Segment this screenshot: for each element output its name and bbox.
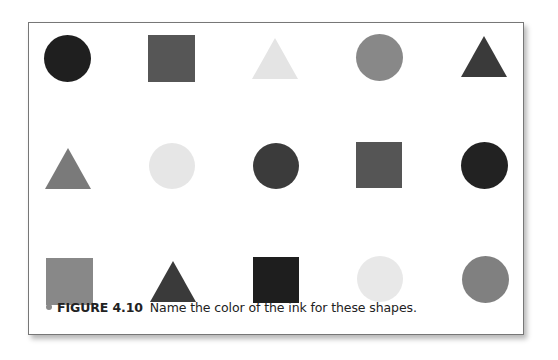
circle-shape (253, 143, 299, 189)
square-shape (356, 142, 402, 188)
circle-shape (44, 35, 91, 82)
circle-shape (461, 142, 508, 189)
figure-label: FIGURE 4.10 (57, 300, 143, 315)
square-shape (148, 35, 195, 82)
triangle-shape (252, 38, 298, 79)
triangle-shape (45, 148, 91, 189)
triangle-shape (150, 261, 196, 302)
caption-text: Name the color of the ink for these shap… (150, 300, 417, 315)
circle-shape (462, 256, 509, 303)
square-shape (46, 258, 93, 305)
circle-shape (356, 34, 403, 81)
square-shape (253, 257, 299, 303)
caption-bullet-icon (46, 304, 52, 310)
circle-shape (357, 256, 403, 302)
circle-shape (149, 143, 195, 189)
triangle-shape (461, 36, 507, 77)
figure-caption: FIGURE 4.10Name the color of the ink for… (46, 300, 417, 315)
